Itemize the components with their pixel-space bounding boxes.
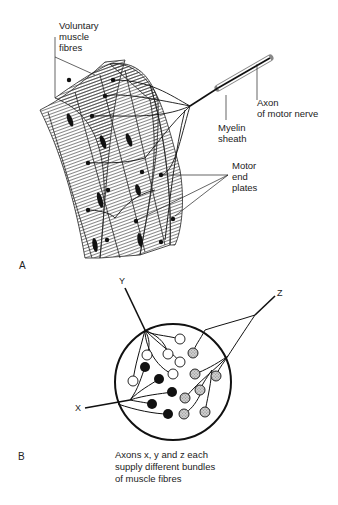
fibres-z (179, 348, 221, 419)
axon-label-z: Z (277, 288, 283, 298)
panel-label-b: B (18, 451, 25, 462)
motor-unit-illustration (0, 0, 338, 505)
panel-b-caption: Axons x, y and z each supply different b… (115, 449, 215, 485)
label-myelin-sheath: Myelin sheath (218, 122, 247, 144)
axon-label-x: X (75, 403, 81, 413)
label-motor-end-plates: Motor end plates (232, 160, 257, 193)
label-voluntary-muscle-fibres: Voluntary muscle fibres (59, 20, 99, 53)
label-axon-motor-nerve: Axon of motor nerve (257, 97, 318, 119)
axon-label-y: Y (119, 276, 125, 286)
panel-label-a: A (19, 260, 26, 271)
motor-unit-schematic (85, 288, 275, 440)
muscle-fibres (40, 60, 182, 258)
